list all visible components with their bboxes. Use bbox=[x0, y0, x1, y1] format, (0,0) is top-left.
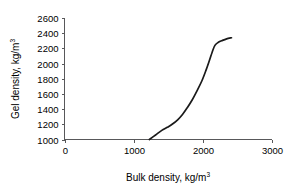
x-axis-title-text: Bulk density, kg/m bbox=[126, 172, 206, 183]
x-tick-label: 1000 bbox=[124, 145, 145, 156]
svg-text:Gel density, kg/m3: Gel density, kg/m3 bbox=[9, 39, 21, 120]
y-tick-label: 1600 bbox=[37, 89, 58, 100]
y-axis-tick-labels: 100012001400160018002000220024002600 bbox=[37, 13, 58, 146]
chart-figure: 100012001400160018002000220024002600 010… bbox=[0, 0, 288, 188]
chart-canvas: 100012001400160018002000220024002600 010… bbox=[0, 0, 288, 188]
svg-text:Bulk density, kg/m3: Bulk density, kg/m3 bbox=[126, 171, 210, 183]
x-axis-title: Bulk density, kg/m3 bbox=[126, 171, 210, 183]
y-tick-label: 2600 bbox=[37, 13, 58, 24]
y-tick-label: 2000 bbox=[37, 59, 58, 70]
y-axis-title-text: Gel density, kg/m bbox=[10, 43, 21, 120]
x-tick-label: 0 bbox=[63, 145, 68, 156]
y-tick-label: 2200 bbox=[37, 43, 58, 54]
y-tick-label: 1400 bbox=[37, 104, 58, 115]
x-tick-label: 3000 bbox=[262, 145, 283, 156]
x-tick-label: 2000 bbox=[193, 145, 214, 156]
y-axis-title-exponent: 3 bbox=[9, 39, 16, 43]
y-axis-title: Gel density, kg/m3 bbox=[9, 39, 21, 120]
y-tick-label: 1000 bbox=[37, 135, 58, 146]
x-axis-title-exponent: 3 bbox=[206, 171, 210, 178]
y-tick-label: 2400 bbox=[37, 28, 58, 39]
y-tick-label: 1800 bbox=[37, 74, 58, 85]
y-tick-label: 1200 bbox=[37, 119, 58, 130]
